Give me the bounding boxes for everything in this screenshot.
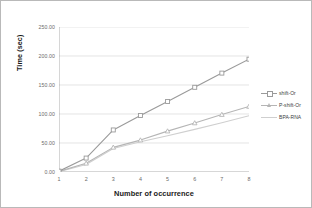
x-tick-label: 6 xyxy=(193,176,196,182)
legend-line-icon xyxy=(261,117,277,118)
data-point-p-shift-or-5 xyxy=(165,129,170,133)
x-axis-title: Number of occurrence xyxy=(59,189,249,198)
x-tick-label: 8 xyxy=(248,176,251,182)
x-tick-label: 4 xyxy=(139,176,142,182)
y-tick-label: 250.00 xyxy=(15,24,55,30)
data-point-p-shift-or-6 xyxy=(192,121,197,125)
legend-item-bpa-rna[interactable]: BPA-RNA xyxy=(261,111,311,123)
y-tick-label: 0.00 xyxy=(15,169,55,175)
chart-figure: 0.0050.00100.00150.00200.00250.00 Time (… xyxy=(0,0,312,208)
data-point-shift-or-7 xyxy=(220,71,224,75)
legend-triangle-marker-icon xyxy=(267,103,271,107)
data-point-shift-or-2 xyxy=(84,156,88,160)
x-tick-label: 2 xyxy=(85,176,88,182)
data-point-p-shift-or-3 xyxy=(111,145,116,149)
x-tick-label: 1 xyxy=(58,176,61,182)
y-axis-title: Time (sec) xyxy=(15,35,24,71)
plot-area xyxy=(59,27,249,172)
chart-legend: shift-OrP-shift-OrBPA-RNA xyxy=(261,87,311,123)
data-point-shift-or-3 xyxy=(111,128,115,132)
x-tick-label: 7 xyxy=(220,176,223,182)
y-tick-label: 50.00 xyxy=(15,140,55,146)
data-point-p-shift-or-8 xyxy=(247,104,249,108)
legend-item-label: shift-Or xyxy=(279,90,296,96)
data-point-shift-or-1 xyxy=(59,169,61,172)
legend-item-label: BPA-RNA xyxy=(279,114,301,120)
x-tick-label: 3 xyxy=(112,176,115,182)
legend-item-shift-or[interactable]: shift-Or xyxy=(261,87,311,99)
data-point-shift-or-6 xyxy=(193,85,197,89)
legend-item-label: P-shift-Or xyxy=(279,102,301,108)
plot-svg xyxy=(59,27,249,172)
data-point-p-shift-or-7 xyxy=(220,112,225,116)
legend-swatch-icon xyxy=(261,113,277,122)
legend-swatch-icon xyxy=(261,101,277,110)
data-point-shift-or-5 xyxy=(166,100,170,104)
legend-swatch-icon xyxy=(261,89,277,98)
y-tick-label: 150.00 xyxy=(15,82,55,88)
data-point-shift-or-4 xyxy=(138,113,142,117)
legend-square-marker-icon xyxy=(267,91,273,97)
data-point-p-shift-or-4 xyxy=(138,138,143,142)
x-tick-label: 5 xyxy=(166,176,169,182)
data-point-p-shift-or-2 xyxy=(84,161,89,165)
legend-item-p-shift-or[interactable]: P-shift-Or xyxy=(261,99,311,111)
y-tick-label: 100.00 xyxy=(15,111,55,117)
x-axis-tick-labels: 12345678 xyxy=(59,176,249,186)
data-point-shift-or-8 xyxy=(247,57,249,61)
